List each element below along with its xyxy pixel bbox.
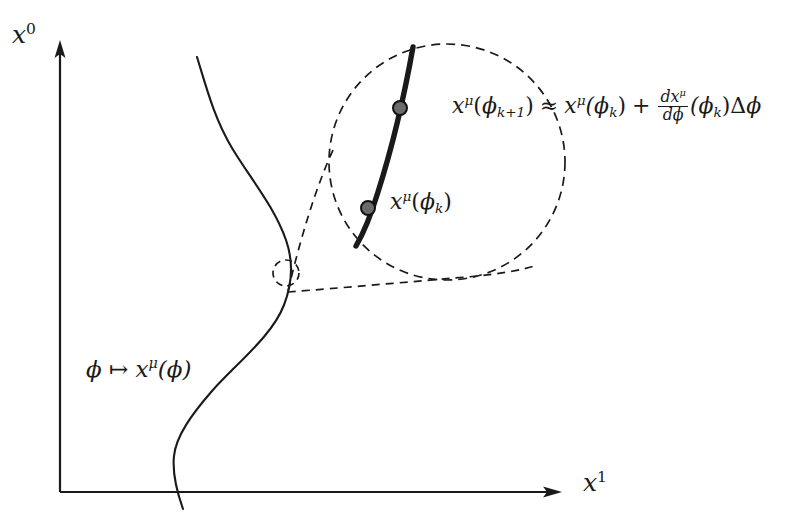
x-axis-label: x1 (583, 470, 607, 495)
taylor-rhs1-fn: x (564, 93, 576, 118)
y-axis-label: x0 (12, 22, 36, 47)
point-label-phi-k: xμ(ϕk) (390, 191, 452, 213)
curve-param-symbol: ϕ (86, 356, 102, 382)
approx-equals-icon: ≈ (540, 93, 558, 118)
point-label-index: k (435, 200, 443, 216)
maps-to-icon: ↦ (109, 356, 128, 382)
taylor-rhs1-exponent: μ (577, 92, 586, 108)
curve-fn-symbol: x (136, 356, 149, 382)
point-label-paren-open: ( (411, 189, 420, 214)
sample-point-phi-k (361, 201, 375, 215)
curve-fn-argument: (ϕ) (158, 356, 192, 382)
diagram-svg (0, 0, 791, 523)
fraction-den-phi: ϕ (673, 105, 684, 124)
worldline-curve (174, 57, 292, 509)
taylor-lhs-index: k+1 (497, 104, 525, 120)
fraction-numerator: dxμ (658, 89, 687, 106)
magnifier-big-circle (329, 44, 565, 280)
y-axis-label-exponent: 0 (26, 20, 36, 38)
taylor-rhs1-arg: (ϕ (586, 93, 610, 118)
cone-line-lower (288, 266, 534, 292)
point-label-exponent: μ (402, 188, 411, 204)
taylor-lhs-fn: x (452, 93, 464, 118)
point-label-phi: ϕ (420, 189, 435, 214)
plus-icon: + (632, 93, 650, 118)
taylor-lhs-paren-close: ) (525, 93, 534, 118)
cone-line-upper (288, 148, 334, 291)
taylor-expansion-equation: xμ(ϕk+1)≈xμ(ϕk)+dxμdϕ(ϕk)Δϕ (452, 90, 761, 124)
taylor-rhs1-paren-close: ) (617, 93, 626, 118)
y-axis-label-symbol: x (12, 20, 26, 49)
point-label-fn: x (390, 189, 402, 214)
taylor-lhs-exponent: μ (464, 92, 473, 108)
curve-fn-exponent: μ (149, 355, 158, 371)
taylor-rhs2-index: k (713, 104, 721, 120)
x-axis-label-symbol: x (583, 468, 597, 497)
derivative-fraction: dxμdϕ (658, 89, 687, 123)
magnifier-cone-lines (288, 148, 534, 292)
sample-point-phi-k-plus-1 (393, 101, 407, 115)
fraction-denominator: dϕ (658, 106, 687, 124)
x-axis-label-exponent: 1 (597, 468, 607, 486)
taylor-lhs-paren-open: ( (473, 93, 482, 118)
taylor-rhs2-arg: (ϕ (690, 93, 714, 118)
curve-map-label: ϕ ↦ xμ(ϕ) (86, 358, 191, 381)
taylor-delta-phi: ϕ (746, 93, 761, 118)
taylor-lhs-phi: ϕ (482, 93, 497, 118)
fraction-num-x: x (671, 87, 680, 106)
delta-icon: Δ (730, 93, 746, 118)
fraction-den-d: d (663, 105, 673, 124)
figure-canvas: x0 x1 ϕ ↦ xμ(ϕ) xμ(ϕk) xμ(ϕk+1)≈xμ(ϕk)+d… (0, 0, 791, 523)
point-label-paren-close: ) (443, 189, 452, 214)
fraction-num-d: d (660, 87, 670, 106)
fraction-num-exponent: μ (680, 87, 686, 98)
